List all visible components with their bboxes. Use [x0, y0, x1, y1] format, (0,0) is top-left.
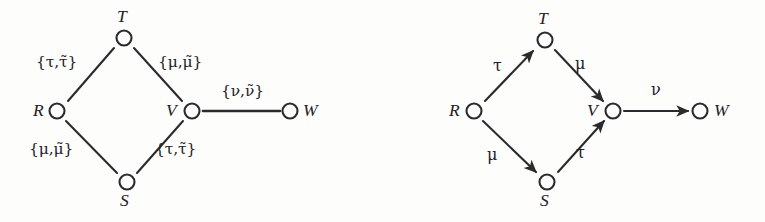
- graph-svg-right: [383, 0, 765, 222]
- edge-label-T-V: {μ,μ̃}: [158, 55, 202, 71]
- edge-label-R-T: {τ,τ̃}: [36, 55, 77, 71]
- edge-label-V-W: ν: [651, 82, 661, 98]
- node-S: [120, 175, 135, 190]
- node-label-T: T: [538, 10, 548, 28]
- diagram-panel-right: R T S V W τ μ μ τ ν: [383, 0, 765, 222]
- edge-label-S-V: τ: [576, 145, 585, 161]
- node-label-S: S: [120, 192, 129, 210]
- node-label-W: W: [714, 102, 729, 120]
- node-label-W: W: [303, 102, 318, 120]
- node-W: [693, 104, 708, 119]
- edge-label-T-V: μ: [575, 56, 585, 72]
- edge-label-S-V: {τ,τ̃}: [155, 142, 196, 158]
- node-label-V: V: [166, 102, 177, 120]
- node-V: [185, 104, 200, 119]
- node-V: [606, 104, 621, 119]
- graph-svg-left: [0, 0, 383, 222]
- node-R: [50, 104, 65, 119]
- node-S: [540, 175, 555, 190]
- node-label-T: T: [117, 8, 127, 26]
- node-T: [538, 33, 553, 48]
- node-label-R: R: [449, 102, 460, 120]
- edge-label-R-S: μ: [487, 147, 497, 163]
- edge-label-R-S: {μ,μ̃}: [29, 142, 73, 158]
- edge-label-V-W: {ν,ν̃}: [221, 84, 264, 100]
- edge-R-S: [66, 121, 117, 173]
- node-T: [117, 31, 132, 46]
- node-label-V: V: [587, 102, 598, 120]
- node-label-R: R: [33, 102, 44, 120]
- edge-label-R-T: τ: [493, 58, 502, 74]
- node-R: [467, 104, 482, 119]
- node-W: [283, 104, 298, 119]
- figure-root: R T S V W {τ,τ̃} {μ,μ̃} {μ,μ̃} {τ,τ̃} {ν…: [0, 0, 765, 222]
- node-label-S: S: [540, 192, 549, 210]
- diagram-panel-left: R T S V W {τ,τ̃} {μ,μ̃} {μ,μ̃} {τ,τ̃} {ν…: [0, 0, 383, 222]
